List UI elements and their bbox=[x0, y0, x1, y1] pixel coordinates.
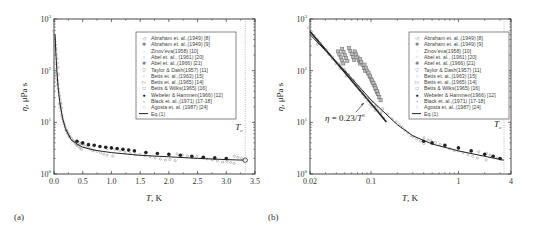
data-point bbox=[467, 153, 469, 155]
data-point bbox=[75, 139, 79, 143]
legend-b: ◁Abraham et. al.,(1949) [8]✱Abraham et. … bbox=[409, 32, 509, 119]
x-tick-label: 3.5 bbox=[250, 177, 260, 186]
data-point bbox=[355, 53, 358, 56]
tc-label-a: Tc bbox=[235, 122, 243, 133]
data-point bbox=[368, 74, 371, 77]
data-point bbox=[176, 153, 178, 155]
data-point bbox=[164, 159, 166, 161]
legend-entry: Betts et. al.,(1963) [15] bbox=[151, 73, 204, 79]
data-point bbox=[457, 146, 461, 150]
data-point bbox=[87, 143, 91, 147]
data-point bbox=[337, 50, 340, 53]
data-point bbox=[430, 139, 432, 141]
data-point bbox=[343, 54, 346, 57]
data-point bbox=[347, 46, 350, 49]
data-point bbox=[226, 160, 228, 162]
panel-label-b: (b) bbox=[268, 212, 279, 222]
data-point bbox=[216, 160, 218, 162]
legend-marker-icon: × bbox=[416, 99, 419, 104]
y-axis-label-a: η, μPa s bbox=[19, 82, 29, 111]
legend-entry: Agosta et. al.,(1987) [24] bbox=[424, 104, 481, 110]
legend-entry: Eq.(1) bbox=[424, 111, 438, 117]
legend-marker-icon: ● bbox=[142, 93, 145, 98]
legend-marker-icon: ◁ bbox=[142, 36, 146, 41]
data-point bbox=[133, 149, 137, 153]
data-point bbox=[498, 157, 502, 161]
legend-entry: Eq.(1) bbox=[151, 111, 165, 117]
data-point bbox=[430, 141, 434, 145]
fit-line bbox=[310, 31, 386, 122]
data-point bbox=[307, 27, 309, 29]
legend-entry: Betts et. al.,(1965) [14] bbox=[424, 79, 477, 85]
legend-entry: Taylor & Dash(1957) [11] bbox=[424, 67, 482, 73]
data-point bbox=[374, 87, 377, 90]
data-point bbox=[434, 141, 436, 143]
data-point bbox=[106, 154, 108, 156]
legend-entry: Abel et. al., (1961) [20] bbox=[151, 54, 204, 60]
legend-entry: Betts & Wilks(1965) [16] bbox=[424, 85, 480, 91]
data-point bbox=[229, 161, 231, 163]
x-tick-label: 0.0 bbox=[49, 177, 59, 186]
data-point bbox=[379, 99, 382, 102]
data-point bbox=[342, 51, 345, 54]
legend-entry: Betts et. al.,(1965) [14] bbox=[151, 79, 204, 85]
data-point bbox=[174, 160, 176, 162]
data-point bbox=[240, 157, 242, 159]
data-point bbox=[364, 66, 367, 69]
data-point bbox=[353, 50, 356, 53]
data-point bbox=[376, 93, 379, 96]
legend-marker-icon: + bbox=[416, 49, 419, 54]
data-point bbox=[224, 157, 228, 161]
data-point bbox=[98, 145, 102, 149]
data-point bbox=[110, 146, 114, 150]
x-tick-label: 0.1 bbox=[366, 177, 376, 186]
data-point bbox=[119, 150, 121, 152]
data-point bbox=[380, 111, 382, 113]
data-point bbox=[154, 157, 156, 159]
legend-marker-icon: + bbox=[143, 49, 146, 54]
x-axis-label-b: T, K bbox=[402, 193, 419, 203]
legend-marker-icon: × bbox=[143, 99, 146, 104]
data-point bbox=[341, 48, 344, 51]
x-tick-label: 1.0 bbox=[106, 177, 116, 186]
legend-entry: Abraham et. al.,(1949) [9] bbox=[424, 41, 483, 47]
x-tick-label: 2.5 bbox=[193, 177, 203, 186]
legend-marker-icon: ○ bbox=[415, 105, 418, 110]
data-point bbox=[358, 57, 361, 60]
data-point bbox=[485, 159, 487, 161]
data-point bbox=[353, 58, 356, 61]
legend-marker-icon: ✱ bbox=[415, 61, 419, 66]
chart-panel-b: 0.020.114 100101102103 Tc T, K η, μPa s … bbox=[268, 14, 513, 222]
legend-a: ◁Abraham et. al.,(1949) [8]✱Abraham et. … bbox=[136, 32, 236, 119]
legend-marker-icon: ▷ bbox=[415, 80, 419, 85]
data-point bbox=[124, 151, 126, 153]
data-point bbox=[423, 137, 425, 139]
data-point bbox=[439, 143, 441, 145]
tc-label-b: Tc bbox=[494, 119, 502, 130]
legend-entry: Taylor & Dash(1957) [11] bbox=[151, 67, 209, 73]
legend-marker-icon: ○ bbox=[415, 74, 418, 79]
data-point bbox=[478, 151, 480, 153]
legend-entry: Betts et. al.,(1963) [15] bbox=[424, 73, 477, 79]
data-point bbox=[427, 139, 429, 141]
legend-marker-icon: ✱ bbox=[142, 61, 146, 66]
data-point: + bbox=[82, 148, 85, 153]
data-point bbox=[349, 49, 352, 52]
legend-entry: Zinov'eva(1958) [10] bbox=[424, 48, 472, 54]
data-point bbox=[339, 56, 342, 59]
legend-entry: Abraham et. al.,(1949) [9] bbox=[151, 41, 210, 47]
data-point: + bbox=[128, 155, 131, 160]
data-point bbox=[382, 108, 384, 110]
data-point bbox=[115, 147, 119, 151]
annotation-formula: η = 0.23/T2 bbox=[325, 113, 365, 123]
legend-entry: Black et. al.,(1971) [17-18] bbox=[151, 98, 212, 104]
x-tick-label: 2.0 bbox=[164, 177, 174, 186]
data-point bbox=[491, 155, 495, 159]
data-point bbox=[85, 145, 87, 147]
data-point bbox=[363, 63, 366, 66]
data-point bbox=[483, 153, 487, 157]
x-tick-label: 1 bbox=[456, 177, 460, 186]
x-axis-label-a: T, K bbox=[146, 193, 163, 203]
x-tick-label: 1.5 bbox=[135, 177, 145, 186]
figure-canvas: 0.00.51.01.52.02.53.03.5 100101102103 ++… bbox=[0, 0, 533, 233]
